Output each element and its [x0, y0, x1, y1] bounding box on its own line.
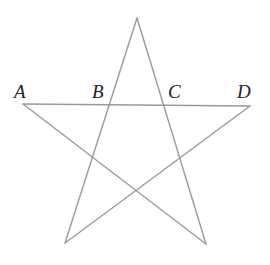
edge-apex-bottom-right	[137, 18, 206, 244]
edge-a-bottom-right	[23, 104, 206, 244]
edge-a-d	[23, 104, 250, 106]
edge-d-bottom-left	[65, 106, 250, 243]
edge-apex-bottom-left	[65, 18, 137, 243]
label-c: C	[168, 81, 181, 102]
label-b: B	[92, 81, 104, 102]
pentagram-diagram: A B C D	[0, 0, 270, 265]
label-d: D	[236, 81, 251, 102]
label-a: A	[12, 81, 26, 102]
